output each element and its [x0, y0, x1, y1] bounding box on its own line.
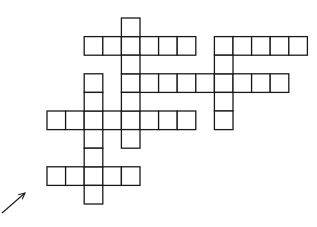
crossword-cell	[289, 37, 308, 56]
crossword-cell	[103, 111, 122, 130]
crossword-cell	[47, 111, 66, 130]
crossword-cell	[84, 111, 103, 130]
crossword-cell	[84, 92, 103, 111]
crossword-cell	[140, 111, 159, 130]
crossword-cell	[84, 148, 103, 167]
crossword-cell	[252, 37, 271, 56]
crossword-cell	[84, 74, 103, 93]
crossword-cell	[214, 111, 233, 130]
crossword-cell	[177, 111, 196, 130]
crossword-cell	[233, 74, 252, 93]
crossword-cell	[84, 185, 103, 204]
crossword-cell	[140, 37, 159, 56]
crossword-cell	[121, 55, 140, 74]
crossword-cell	[121, 37, 140, 56]
crossword-grid	[0, 0, 317, 227]
crossword-cell	[233, 37, 252, 56]
crossword-cell	[159, 74, 178, 93]
crossword-cell	[177, 74, 196, 93]
crossword-cell	[66, 167, 85, 186]
crossword-cell	[121, 111, 140, 130]
crossword-cell	[214, 74, 233, 93]
crossword-diagram	[0, 0, 317, 227]
crossword-cell	[214, 92, 233, 111]
crossword-cell	[196, 74, 215, 93]
crossword-cell	[140, 74, 159, 93]
crossword-cell	[66, 111, 85, 130]
crossword-cell	[103, 167, 122, 186]
arrow-icon	[2, 193, 25, 213]
crossword-cell	[121, 167, 140, 186]
crossword-cell	[47, 167, 66, 186]
crossword-cell	[103, 37, 122, 56]
crossword-cell	[121, 92, 140, 111]
crossword-cell	[121, 74, 140, 93]
crossword-cell	[159, 111, 178, 130]
crossword-cell	[84, 37, 103, 56]
crossword-cell	[214, 55, 233, 74]
crossword-cell	[270, 74, 289, 93]
crossword-cell	[214, 37, 233, 56]
crossword-cell	[252, 74, 271, 93]
crossword-cell	[121, 18, 140, 37]
crossword-cell	[84, 167, 103, 186]
crossword-cell	[121, 130, 140, 149]
crossword-cell	[159, 37, 178, 56]
crossword-cell	[270, 37, 289, 56]
crossword-cell	[84, 130, 103, 149]
crossword-cell	[177, 37, 196, 56]
